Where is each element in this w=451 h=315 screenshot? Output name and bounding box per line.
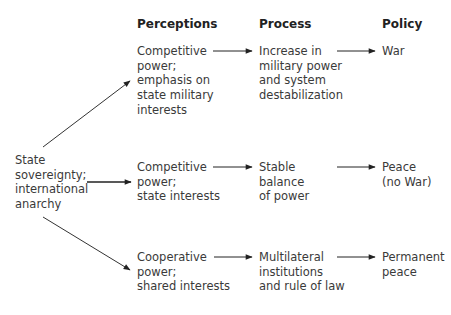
arrow-source-to-row3 bbox=[43, 217, 130, 270]
arrow-source-to-row1 bbox=[43, 81, 130, 147]
arrows-layer bbox=[0, 0, 451, 315]
